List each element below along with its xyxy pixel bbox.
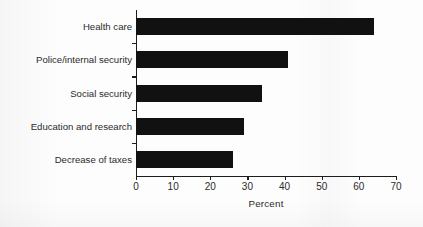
x-tick-label: 30 [227, 181, 267, 192]
x-axis-line [136, 176, 396, 177]
x-axis-tick [247, 176, 248, 180]
category-label: Decrease of taxes [0, 151, 132, 168]
x-axis-tick [396, 176, 397, 180]
category-label: Education and research [0, 118, 132, 135]
category-label: Health care [0, 18, 132, 35]
category-label-text: Health care [83, 21, 132, 32]
x-axis-tick [322, 176, 323, 180]
category-label: Social security [0, 85, 132, 102]
x-axis-tick [136, 176, 137, 180]
bar [136, 118, 244, 135]
y-axis-tick [132, 143, 136, 144]
y-axis-tick [132, 43, 136, 44]
bar [136, 85, 262, 102]
x-tick-label: 10 [153, 181, 193, 192]
bar [136, 151, 233, 168]
category-label: Police/internal security [0, 51, 132, 68]
category-label-text: Education and research [31, 121, 132, 132]
x-axis-tick [173, 176, 174, 180]
category-label-text: Social security [70, 88, 132, 99]
y-axis-tick [132, 76, 136, 77]
x-axis-tick [285, 176, 286, 180]
category-label-text: Police/internal security [36, 54, 132, 65]
x-tick-label: 60 [339, 181, 379, 192]
x-tick-label: 20 [190, 181, 230, 192]
x-axis-tick [359, 176, 360, 180]
x-tick-label: 40 [265, 181, 305, 192]
plot-area: Health carePolice/internal securitySocia… [0, 0, 423, 227]
x-tick-label: 0 [116, 181, 156, 192]
bar [136, 18, 374, 35]
x-tick-label: 50 [302, 181, 342, 192]
bar [136, 51, 288, 68]
x-axis-title: Percent [136, 198, 396, 209]
x-axis-tick [210, 176, 211, 180]
bar-chart: Health carePolice/internal securitySocia… [0, 0, 423, 227]
y-axis-tick [132, 110, 136, 111]
category-label-text: Decrease of taxes [55, 154, 132, 165]
x-tick-label: 70 [376, 181, 416, 192]
